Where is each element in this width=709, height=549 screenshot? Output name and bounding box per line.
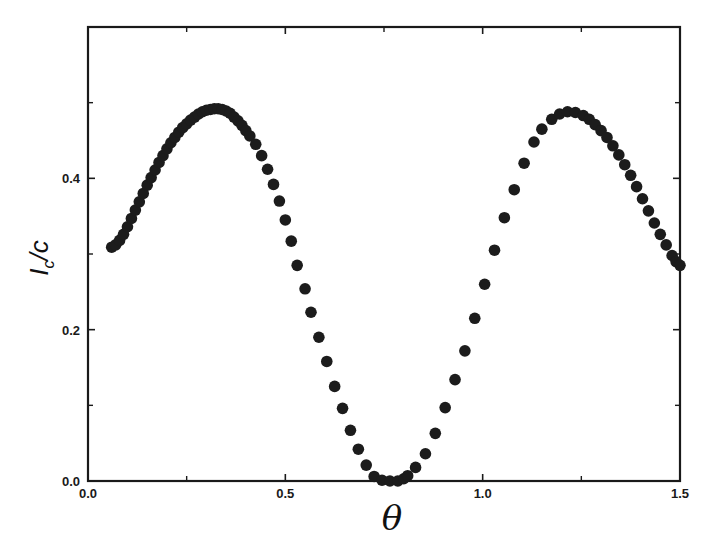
y-tick-label: 0.4 xyxy=(62,171,81,186)
data-point xyxy=(329,381,341,393)
data-point xyxy=(654,229,666,241)
data-point xyxy=(518,157,530,169)
data-point xyxy=(360,459,372,471)
data-point xyxy=(430,428,442,440)
data-markers xyxy=(106,103,686,487)
plot-frame xyxy=(88,27,680,481)
data-point xyxy=(321,356,333,368)
data-point xyxy=(660,239,672,251)
data-point xyxy=(256,150,268,162)
data-point xyxy=(489,244,501,256)
x-tick-label: 0.0 xyxy=(79,486,97,501)
data-point xyxy=(291,260,303,272)
y-tick-label: 0.0 xyxy=(62,474,80,489)
data-point xyxy=(262,163,274,175)
data-point xyxy=(299,283,311,295)
data-point xyxy=(250,138,262,150)
x-axis-title: θ xyxy=(382,498,402,538)
data-point xyxy=(499,212,511,224)
x-tick-label: 1.5 xyxy=(671,486,689,501)
data-point xyxy=(631,181,643,193)
y-axis-title: Ic/c xyxy=(24,240,57,275)
minor-ticks xyxy=(88,27,680,481)
data-point xyxy=(410,462,422,474)
data-point xyxy=(345,425,357,437)
y-axis-title-rest: /c xyxy=(24,240,54,262)
data-point xyxy=(439,402,451,414)
x-tick-label: 0.5 xyxy=(276,486,294,501)
data-point xyxy=(305,306,317,318)
data-point xyxy=(528,136,540,148)
data-point xyxy=(619,159,631,171)
data-point xyxy=(643,205,655,217)
data-point xyxy=(420,448,432,460)
data-point xyxy=(337,403,349,415)
data-point xyxy=(536,123,548,135)
data-point xyxy=(625,170,637,182)
data-point xyxy=(469,313,481,325)
y-tick-labels: 0.00.20.4 xyxy=(62,171,81,489)
data-point xyxy=(268,179,280,191)
data-point xyxy=(285,235,297,247)
data-point xyxy=(459,345,471,357)
y-tick-label: 0.2 xyxy=(62,323,80,338)
chart: 0.00.51.01.5 0.00.20.4 Ic/c θ xyxy=(0,0,709,549)
y-axis-title-main: I xyxy=(24,269,54,276)
data-point xyxy=(353,443,365,455)
data-point xyxy=(313,331,325,343)
data-point xyxy=(649,217,661,229)
data-point xyxy=(613,149,625,161)
data-point xyxy=(674,260,686,272)
major-ticks xyxy=(88,27,680,481)
plot-border xyxy=(88,27,680,481)
x-tick-label: 1.0 xyxy=(474,486,492,501)
data-point xyxy=(274,195,286,207)
data-point xyxy=(508,184,520,196)
data-point xyxy=(280,214,292,226)
data-point xyxy=(449,374,461,386)
data-point xyxy=(637,193,649,205)
y-axis-title-sub: c xyxy=(40,261,57,269)
data-point xyxy=(479,278,491,290)
